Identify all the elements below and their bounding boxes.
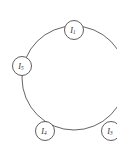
graph-node-bottom-left[interactable]: I4: [36, 122, 55, 141]
cycle-graph-canvas: I1 I5 I4 I3: [0, 0, 117, 159]
graph-node-top[interactable]: I1: [65, 21, 84, 40]
graph-node-left[interactable]: I5: [13, 57, 32, 76]
cycle-graph-figure: I1 I5 I4 I3: [0, 0, 117, 159]
graph-node-bottom-right[interactable]: I3: [102, 122, 118, 141]
cycle-edge-path: [22, 26, 117, 130]
